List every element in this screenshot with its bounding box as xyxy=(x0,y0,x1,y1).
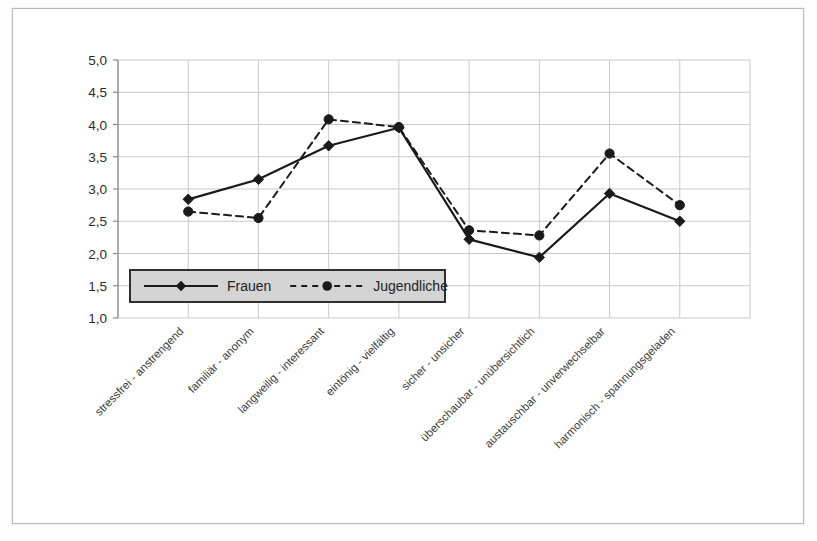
data-point-marker xyxy=(184,207,193,216)
y-axis-tick-label: 2,0 xyxy=(88,247,107,262)
data-point-marker xyxy=(324,115,333,124)
y-axis-tick-labels: 5,04,54,03,53,02,52,01,51,0 xyxy=(88,53,107,326)
legend-marker xyxy=(322,281,332,291)
y-axis-tick-label: 1,5 xyxy=(88,279,107,294)
category-label: eintönig - vielfältig xyxy=(323,325,396,398)
data-point-marker xyxy=(605,149,614,158)
category-label: familiär - anonym xyxy=(186,325,256,395)
chart-svg: 5,04,54,03,53,02,52,01,51,0 stressfrei -… xyxy=(0,0,817,541)
y-axis-tick-label: 1,0 xyxy=(88,311,107,326)
screenshot-page: 5,04,54,03,53,02,52,01,51,0 stressfrei -… xyxy=(0,0,817,541)
data-point-marker xyxy=(183,194,193,204)
data-point-marker xyxy=(535,231,544,240)
data-point-marker xyxy=(323,141,333,151)
category-label: stressfrei - anstrengend xyxy=(93,325,186,418)
y-axis-tick-label: 2,5 xyxy=(88,214,107,229)
line-chart: 5,04,54,03,53,02,52,01,51,0 stressfrei -… xyxy=(0,0,817,541)
category-axis-labels: stressfrei - anstrengendfamiliär - anony… xyxy=(93,324,678,450)
data-point-marker xyxy=(253,174,263,184)
y-axis-tick-label: 3,0 xyxy=(88,182,107,197)
category-label: sicher - unsicher xyxy=(399,325,467,393)
data-point-marker xyxy=(675,201,684,210)
y-axis xyxy=(113,60,118,318)
y-axis-tick-label: 4,5 xyxy=(88,85,107,100)
chart-legend: FrauenJugendliche xyxy=(130,270,448,302)
y-axis-tick-label: 3,5 xyxy=(88,150,107,165)
data-point-marker xyxy=(254,213,263,222)
data-point-marker xyxy=(464,234,474,244)
category-label: harmonisch - spannungsgeladen xyxy=(552,325,677,450)
data-point-marker xyxy=(675,216,685,226)
data-point-marker xyxy=(465,226,474,235)
y-axis-tick-label: 5,0 xyxy=(88,53,107,68)
y-axis-tick-label: 4,0 xyxy=(88,118,107,133)
category-label: austauschbar - unverwechselbar xyxy=(482,325,607,450)
legend-label: Jugendliche xyxy=(373,278,448,294)
data-point-marker xyxy=(394,122,403,131)
legend-label: Frauen xyxy=(227,278,271,294)
category-label: überschaubar - unübersichtlich xyxy=(418,325,537,444)
